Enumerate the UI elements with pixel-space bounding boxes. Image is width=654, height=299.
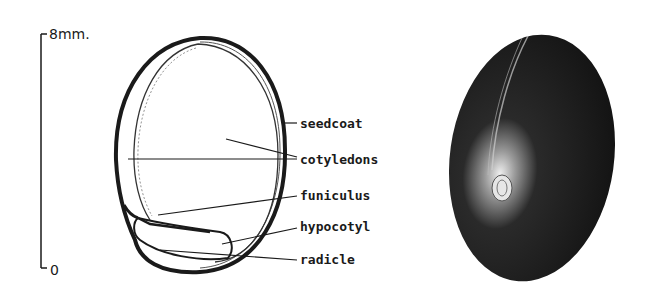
scale-top-label: 8mm. [49,26,90,42]
seed-diagram: 8mm. 0 seedcoat cotyledons funiculus hyp… [0,0,654,299]
label-seedcoat: seedcoat [300,116,363,131]
seed-exterior [434,24,631,292]
scale-bar: 8mm. 0 [41,26,90,278]
leader-lines [128,123,297,260]
part-labels: seedcoat cotyledons funiculus hypocotyl … [300,116,378,267]
label-hypocotyl: hypocotyl [300,219,370,234]
scale-bottom-label: 0 [50,262,59,278]
seed-cross-section [116,38,285,272]
label-funiculus: funiculus [300,188,370,203]
label-cotyledons: cotyledons [300,152,378,167]
label-radicle: radicle [300,252,355,267]
hilum-icon [492,175,512,201]
